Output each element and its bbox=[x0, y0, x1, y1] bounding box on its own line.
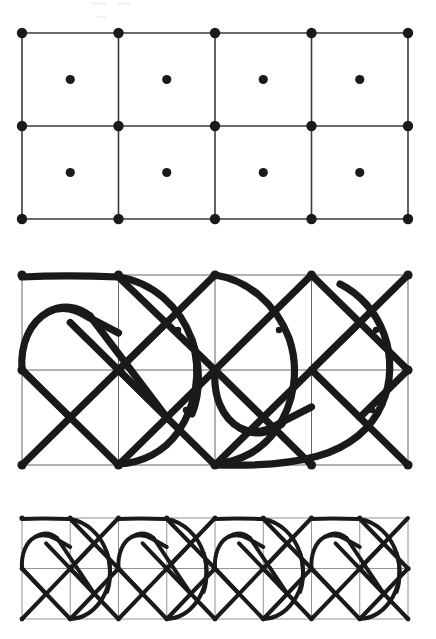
figure-svg bbox=[0, 0, 436, 639]
figure-container bbox=[0, 0, 436, 639]
panel-kolam-large bbox=[17, 270, 412, 469]
scan-artifacts bbox=[92, 2, 131, 18]
panel-kolam-compressed bbox=[19, 515, 410, 621]
panel-lattice bbox=[17, 28, 413, 224]
